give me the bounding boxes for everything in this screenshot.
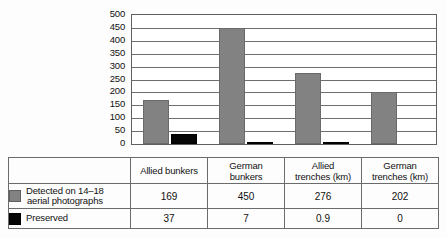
bar-detected: [371, 92, 397, 144]
column-header-german-trenches: German trenches (km): [362, 158, 439, 184]
data-table: Allied bunkers German bunkers Allied tre…: [8, 157, 439, 229]
column-header-line: trenches (km): [285, 171, 361, 182]
bar-preserved: [247, 142, 273, 144]
data-table-wrapper: Allied bunkers German bunkers Allied tre…: [8, 157, 438, 231]
y-axis-tick-label: 250: [110, 74, 125, 84]
bar-detected: [219, 28, 245, 144]
legend-label-line: aerial photographs: [27, 195, 103, 206]
column-header-line: Allied bunkers: [131, 165, 207, 176]
table-cell: 169: [131, 184, 208, 209]
table-cell: 0.9: [285, 209, 362, 229]
table-cell: 7: [208, 209, 285, 229]
y-axis-tick-label: 350: [110, 48, 125, 58]
table-cell: 37: [131, 209, 208, 229]
y-axis-tick-label: 0: [120, 138, 125, 148]
column-header-allied-bunkers: Allied bunkers: [131, 158, 208, 184]
table-row: Preserved 37 7 0.9 0: [9, 209, 439, 229]
gridline: [132, 80, 436, 81]
bar-detected: [295, 73, 321, 144]
legend-entry-detected: Detected on 14–18 aerial photographs: [9, 184, 131, 209]
y-axis-tick-label: 450: [110, 22, 125, 32]
gridline: [132, 41, 436, 42]
y-axis-tick-label: 500: [110, 9, 125, 19]
table-cell: 276: [285, 184, 362, 209]
column-header-line: trenches (km): [362, 171, 438, 182]
gridline: [132, 28, 436, 29]
table-row: Detected on 14–18 aerial photographs 169…: [9, 184, 439, 209]
column-header-line: bunkers: [208, 171, 284, 182]
column-header-line: German: [208, 160, 284, 171]
legend-entry-preserved: Preserved: [9, 209, 131, 229]
table-header-row: Allied bunkers German bunkers Allied tre…: [9, 158, 439, 184]
y-axis: 500450400350300250200150100500: [92, 9, 125, 145]
y-axis-tick-label: 50: [115, 125, 125, 135]
column-header-allied-trenches: Allied trenches (km): [285, 158, 362, 184]
y-axis-tick-label: 100: [110, 112, 125, 122]
y-axis-tick-label: 150: [110, 99, 125, 109]
black-swatch-icon: [9, 213, 21, 225]
y-axis-tick-label: 200: [110, 86, 125, 96]
table-cell: 450: [208, 184, 285, 209]
legend-label-line: Detected on 14–18: [26, 185, 104, 196]
plot-area: [131, 14, 437, 145]
bar-chart-figure: 500450400350300250200150100500 Allied bu…: [0, 0, 447, 238]
table-cell: 202: [362, 184, 439, 209]
gridline: [132, 54, 436, 55]
table-corner-blank: [9, 158, 131, 184]
legend-label-preserved: Preserved: [26, 213, 68, 224]
column-header-line: Allied: [285, 160, 361, 171]
bar-preserved: [323, 142, 349, 144]
chart-area: 500450400350300250200150100500: [0, 0, 447, 160]
y-axis-tick-label: 400: [110, 35, 125, 45]
gray-swatch-icon: [9, 190, 21, 202]
column-header-line: German: [362, 160, 438, 171]
column-header-german-bunkers: German bunkers: [208, 158, 285, 184]
y-axis-tick-label: 300: [110, 61, 125, 71]
table-cell: 0: [362, 209, 439, 229]
legend-label-detected: Detected on 14–18 aerial photographs: [26, 186, 104, 207]
bar-preserved: [171, 134, 197, 144]
gridline: [132, 67, 436, 68]
bar-detected: [143, 100, 169, 144]
